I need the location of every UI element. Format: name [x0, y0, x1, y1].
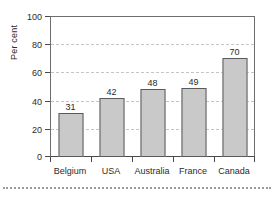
bar-group-france: 49	[173, 16, 214, 157]
bar-value-canada: 70	[229, 47, 239, 57]
x-tick-mark-5	[254, 157, 255, 162]
bar-chart-figure: 100 80 60 40 20 0 Per cent 31 42 48	[0, 0, 274, 197]
bar-group-usa: 42	[91, 16, 132, 157]
x-tick-label-australia: Australia	[134, 166, 169, 176]
y-axis: 100 80 60 40 20 0	[0, 0, 50, 197]
y-tick-label-80: 80	[32, 41, 42, 50]
y-tick-label-60: 60	[32, 69, 42, 78]
y-tick-label-0: 0	[37, 153, 42, 162]
bar-group-australia: 48	[132, 16, 173, 157]
bar-group-belgium: 31	[50, 16, 91, 157]
bar-usa[interactable]	[99, 98, 124, 157]
x-tick-mark-2	[132, 157, 133, 162]
x-tick-label-belgium: Belgium	[54, 166, 87, 176]
bar-value-france: 49	[188, 77, 198, 87]
x-tick-mark-1	[91, 157, 92, 162]
bar-france[interactable]	[181, 88, 206, 157]
bar-canada[interactable]	[222, 58, 247, 157]
bar-value-australia: 48	[147, 78, 157, 88]
y-tick-label-40: 40	[32, 98, 42, 107]
x-tick-label-france: France	[179, 166, 207, 176]
x-tick-mark-4	[214, 157, 215, 162]
y-tick-label-100: 100	[27, 13, 42, 22]
x-axis: Belgium USA Australia France Canada	[50, 157, 255, 197]
bar-value-usa: 42	[106, 87, 116, 97]
bars-layer: 31 42 48 49 70	[50, 16, 255, 157]
bar-australia[interactable]	[140, 89, 165, 157]
bar-belgium[interactable]	[58, 113, 83, 157]
x-tick-label-usa: USA	[102, 166, 121, 176]
y-axis-title: Per cent	[9, 25, 19, 60]
x-tick-mark-3	[173, 157, 174, 162]
dotted-divider	[3, 187, 271, 189]
x-tick-mark-0	[50, 157, 51, 162]
bar-value-belgium: 31	[65, 102, 75, 112]
y-tick-label-20: 20	[32, 126, 42, 135]
bar-group-canada: 70	[214, 16, 255, 157]
x-tick-label-canada: Canada	[218, 166, 250, 176]
